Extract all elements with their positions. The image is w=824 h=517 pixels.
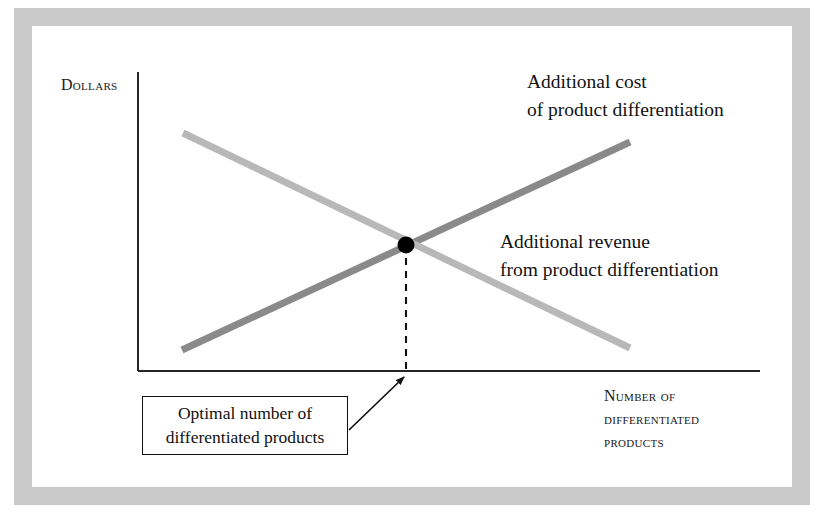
figure-root: Dollars Number of differentiated product… (0, 0, 824, 517)
x-axis-title: Number of differentiated products (604, 384, 699, 454)
callout-line-2: differentiated products (166, 426, 325, 449)
revenue-curve-label-line-1: Additional revenue (500, 228, 718, 256)
plot-area: Dollars Number of differentiated product… (0, 0, 824, 517)
cost-curve-label-line-1: Additional cost (527, 68, 724, 96)
x-axis-title-line-1: Number of (604, 384, 699, 407)
y-axis-title: Dollars (61, 74, 117, 96)
x-axis-title-line-3: products (604, 430, 699, 453)
cost-curve-label-line-2: of product differentiation (527, 96, 724, 124)
optimal-quantity-callout-box: Optimal number of differentiated product… (142, 396, 348, 455)
equilibrium-point-dot (398, 237, 415, 254)
revenue-curve-label-line-2: from product differentiation (500, 256, 718, 284)
callout-line-1: Optimal number of (178, 402, 312, 425)
revenue-curve-label: Additional revenue from product differen… (500, 228, 718, 283)
x-axis-title-line-2: differentiated (604, 407, 699, 430)
callout-arrow (349, 377, 404, 430)
cost-curve-label: Additional cost of product differentiati… (527, 68, 724, 123)
